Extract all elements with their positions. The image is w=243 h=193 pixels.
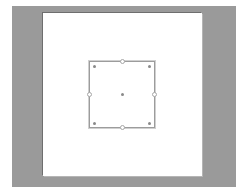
resize-handle-top[interactable] <box>120 59 125 64</box>
control-point-bottom-left[interactable] <box>93 122 96 125</box>
resize-handle-bottom[interactable] <box>120 125 125 130</box>
control-point-center[interactable] <box>121 93 124 96</box>
control-point-top-right[interactable] <box>148 65 151 68</box>
resize-handle-left[interactable] <box>87 92 92 97</box>
control-point-bottom-right[interactable] <box>148 122 151 125</box>
resize-handle-right[interactable] <box>152 92 157 97</box>
control-point-top-left[interactable] <box>93 65 96 68</box>
